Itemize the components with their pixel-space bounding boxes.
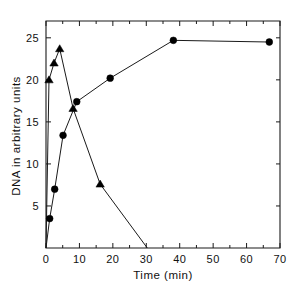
x-tick-labels: 010203040506070 — [43, 253, 287, 265]
x-tick-label: 20 — [106, 253, 119, 265]
y-tick-label: 10 — [26, 158, 39, 170]
data-point-triangle — [96, 180, 104, 187]
x-tick-label: 40 — [173, 253, 186, 265]
axis-frame — [46, 21, 280, 248]
x-tick-label: 60 — [240, 253, 253, 265]
y-axis-title: DNA in arbitrary units — [10, 76, 22, 196]
right-axis-ticks — [276, 38, 280, 206]
data-point-triangle — [56, 45, 64, 52]
x-tick-label: 70 — [273, 253, 286, 265]
y-tick-labels: 510152025 — [26, 32, 39, 212]
y-tick-label: 15 — [26, 116, 39, 128]
x-tick-label: 10 — [73, 253, 86, 265]
plot-border — [46, 21, 280, 248]
data-point-circle — [46, 215, 53, 222]
series-markers — [45, 37, 273, 222]
series-line-circles — [46, 40, 269, 248]
top-axis-ticks — [46, 21, 280, 26]
chart-plot-area: 510152025 010203040506070 Time (min) DNA… — [0, 0, 300, 291]
y-tick-label: 5 — [32, 200, 39, 212]
data-point-triangle — [50, 59, 58, 66]
x-tick-label: 0 — [43, 253, 50, 265]
y-tick-label: 25 — [26, 32, 39, 44]
data-point-circle — [51, 186, 58, 193]
y-tick-label: 20 — [26, 74, 39, 86]
chart-figure: 510152025 010203040506070 Time (min) DNA… — [0, 0, 300, 291]
data-point-circle — [266, 39, 273, 46]
x-tick-label: 30 — [140, 253, 153, 265]
data-point-circle — [60, 132, 67, 139]
series-lines — [46, 40, 269, 248]
data-point-triangle — [69, 104, 77, 111]
x-tick-label: 50 — [207, 253, 220, 265]
data-point-circle — [107, 75, 114, 82]
data-point-circle — [73, 98, 80, 105]
data-point-circle — [170, 37, 177, 44]
x-axis-title: Time (min) — [133, 269, 193, 281]
x-axis-ticks — [46, 243, 280, 248]
